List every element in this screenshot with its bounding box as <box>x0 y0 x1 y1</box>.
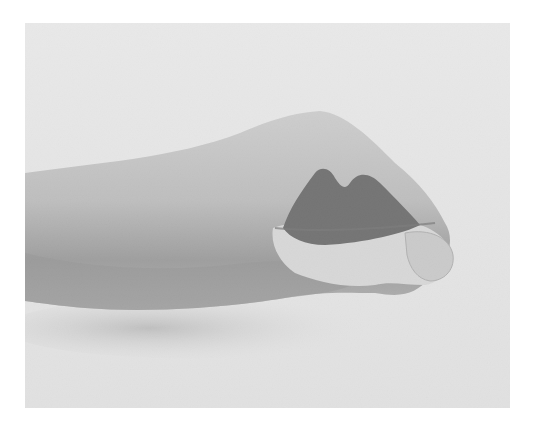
film-grain <box>25 23 510 408</box>
fist-illustration <box>25 23 510 408</box>
photograph <box>25 23 510 408</box>
